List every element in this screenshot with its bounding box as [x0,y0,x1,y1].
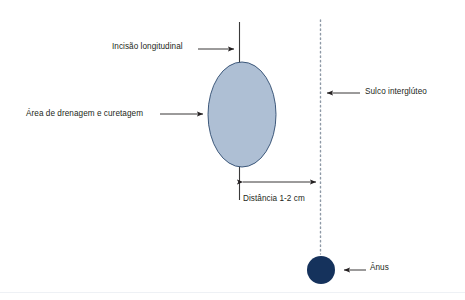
distance-label: Distância 1-2 cm [243,195,305,203]
anus-label: Ânus [370,264,389,272]
incision-label: Incisão longitudinal [112,43,183,51]
anus-marker [307,256,335,284]
drainage-area-label: Área de drenagem e curetagem [26,110,143,118]
drainage-and-curettage-area [208,62,276,167]
pilonidal-incision-diagram: Incisão longitudinal Área de drenagem e … [0,0,465,300]
diagram-canvas [0,0,465,300]
intergluteal-sulcus-label: Sulco interglúteo [365,88,427,96]
